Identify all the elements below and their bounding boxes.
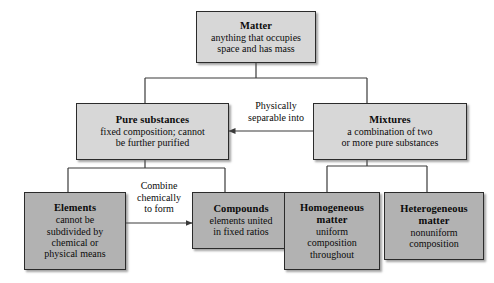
node-elements[interactable]: Elements cannot be subdivided by chemica… — [24, 192, 126, 270]
node-matter[interactable]: Matter anything that occupies space and … — [196, 11, 316, 63]
node-matter-desc: anything that occupies space and has mas… — [211, 32, 301, 55]
node-pure-substances-desc: fixed composition; cannot be further pur… — [100, 126, 204, 149]
node-heterogeneous-matter-desc: nonuniform composition — [409, 227, 458, 250]
node-compounds-desc: elements united in fixed ratios — [209, 215, 272, 238]
node-pure-substances[interactable]: Pure substances fixed composition; canno… — [76, 103, 229, 160]
node-elements-title: Elements — [54, 202, 96, 214]
node-homogeneous-matter-title: Homogeneous matter — [300, 202, 364, 226]
node-compounds-title: Compounds — [213, 203, 268, 215]
node-heterogeneous-matter-title: Heterogeneous matter — [400, 203, 468, 227]
edge-label-physically-separable-into: Physically separable into — [228, 100, 324, 123]
edge-label-combine-chemically-to-form: Combine chemically to form — [124, 180, 194, 215]
node-compounds[interactable]: Compounds elements united in fixed ratio… — [192, 192, 290, 249]
node-homogeneous-matter[interactable]: Homogeneous matter uniform composition t… — [284, 192, 380, 270]
node-matter-title: Matter — [240, 20, 272, 32]
node-elements-desc: cannot be subdivided by chemical or phys… — [44, 214, 105, 260]
node-homogeneous-matter-desc: uniform composition throughout — [307, 226, 356, 260]
node-mixtures-desc: a combination of two or more pure substa… — [342, 126, 439, 149]
node-mixtures[interactable]: Mixtures a combination of two or more pu… — [313, 103, 467, 160]
node-heterogeneous-matter[interactable]: Heterogeneous matter nonuniform composit… — [384, 192, 484, 260]
node-pure-substances-title: Pure substances — [116, 114, 189, 126]
matter-classification-diagram: Matter anything that occupies space and … — [0, 0, 494, 283]
node-mixtures-title: Mixtures — [369, 114, 410, 126]
